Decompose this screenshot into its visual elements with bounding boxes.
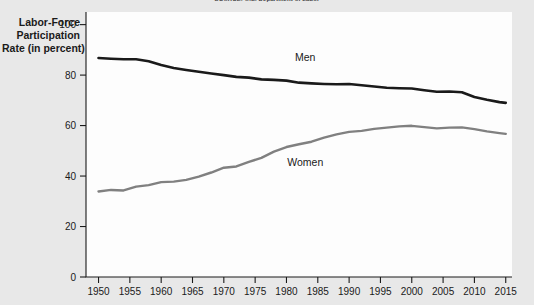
x-tick-label: 1975 <box>244 286 267 297</box>
y-tick-label: 80 <box>65 70 77 81</box>
y-tick-label: 60 <box>65 120 77 131</box>
x-tick-label: 1980 <box>275 286 298 297</box>
x-tick-label: 1995 <box>369 286 392 297</box>
series-line-men <box>99 58 506 103</box>
series-lines <box>99 58 506 192</box>
y-tick-label: 20 <box>65 221 77 232</box>
x-tick-label: 1990 <box>338 286 361 297</box>
x-tick-label: 1985 <box>307 286 330 297</box>
x-tick-label: 1965 <box>181 286 204 297</box>
x-tick-label: 2010 <box>463 286 486 297</box>
y-tick-label: 40 <box>65 171 77 182</box>
x-tick-label: 1970 <box>213 286 236 297</box>
series-label-men: Men <box>295 51 316 63</box>
x-tick-label: 2005 <box>432 286 455 297</box>
y-axis-ticks: 020406080100 <box>59 19 86 282</box>
x-axis-ticks: 1950195519601965197019751980198519901995… <box>87 277 517 297</box>
series-label-women: Women <box>287 156 323 168</box>
x-tick-label: 1950 <box>87 286 110 297</box>
series-annotations: MenWomen <box>287 51 323 168</box>
y-tick-label: 100 <box>59 19 76 30</box>
y-tick-label: 0 <box>70 272 76 283</box>
chart-svg: 020406080100 195019551960196519701975198… <box>0 0 534 305</box>
x-tick-label: 2015 <box>495 286 518 297</box>
x-tick-label: 1955 <box>119 286 142 297</box>
labor-force-participation-figure: SOURCE: U.S. Department of Labor Labor-F… <box>0 0 534 305</box>
x-tick-label: 1960 <box>150 286 173 297</box>
x-tick-label: 2000 <box>401 286 424 297</box>
